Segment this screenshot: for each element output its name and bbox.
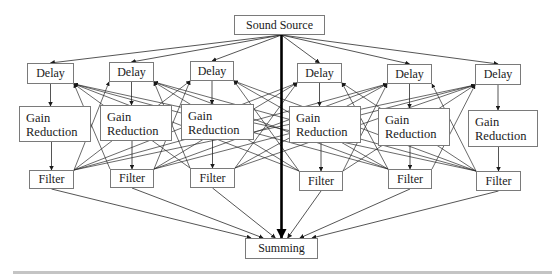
delay-label: Delay	[117, 66, 146, 79]
filter-label: Filter	[200, 172, 226, 185]
gain-label-line1: Gain	[26, 111, 90, 125]
delay-node-4: Delay	[297, 63, 342, 83]
sound-source-node: Sound Source	[234, 15, 325, 35]
filter-label: Filter	[119, 172, 145, 185]
filter-label: Filter	[486, 175, 512, 188]
filter-node-5: Filter	[388, 169, 432, 189]
filter-node-6: Filter	[476, 171, 521, 191]
filter-node-2: Filter	[110, 169, 154, 188]
gain-reduction-node-2: GainReduction	[100, 105, 172, 141]
filter-node-1: Filter	[29, 170, 74, 189]
gain-label-line1: Gain	[475, 115, 537, 129]
gain-label-line2: Reduction	[188, 123, 253, 137]
gain-reduction-node-3: GainReduction	[181, 104, 254, 140]
gain-label-line1: Gain	[296, 111, 360, 125]
delay-node-6: Delay	[475, 64, 521, 85]
delay-label: Delay	[198, 65, 227, 78]
gain-reduction-node-4: GainReduction	[289, 106, 361, 143]
gain-label-line1: Gain	[188, 109, 253, 123]
delay-node-2: Delay	[109, 62, 154, 82]
gain-reduction-node-5: GainReduction	[378, 108, 450, 146]
gain-label-line2: Reduction	[296, 125, 360, 139]
delay-node-5: Delay	[387, 64, 432, 84]
sound-source-label: Sound Source	[246, 19, 313, 32]
gain-reduction-node-6: GainReduction	[468, 110, 538, 147]
gain-label-line2: Reduction	[475, 129, 537, 143]
filter-node-3: Filter	[190, 168, 235, 188]
gain-label-line2: Reduction	[107, 124, 171, 138]
filter-label: Filter	[397, 173, 423, 186]
gain-reduction-node-1: GainReduction	[19, 106, 91, 142]
delay-label: Delay	[395, 68, 424, 81]
delay-network-diagram: Sound Source Delay GainReduction Filter …	[0, 0, 560, 274]
gain-label-line1: Gain	[385, 113, 449, 127]
filter-label: Filter	[39, 173, 65, 186]
gain-label-line2: Reduction	[26, 125, 90, 139]
delay-label: Delay	[484, 68, 513, 81]
filter-label: Filter	[308, 175, 334, 188]
delay-node-1: Delay	[27, 63, 74, 84]
delay-label: Delay	[36, 67, 65, 80]
gain-label-line1: Gain	[107, 110, 171, 124]
filter-node-4: Filter	[299, 171, 343, 191]
gain-label-line2: Reduction	[385, 127, 449, 141]
summing-label: Summing	[258, 242, 305, 255]
delay-label: Delay	[305, 67, 334, 80]
summing-node: Summing	[245, 238, 318, 259]
delay-node-3: Delay	[190, 61, 234, 81]
